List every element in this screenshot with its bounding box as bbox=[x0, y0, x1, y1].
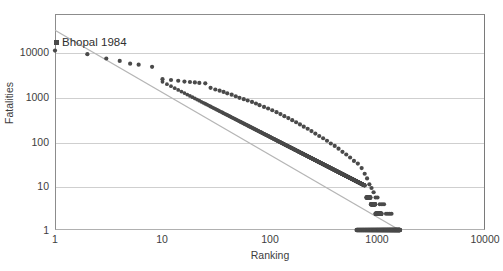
data-point bbox=[360, 166, 364, 170]
data-point bbox=[254, 101, 258, 105]
data-point bbox=[208, 86, 212, 90]
data-point bbox=[165, 82, 169, 86]
data-point bbox=[382, 202, 386, 206]
data-point bbox=[137, 63, 141, 67]
data-point bbox=[197, 81, 201, 85]
data-point bbox=[372, 190, 376, 194]
data-point bbox=[53, 49, 57, 53]
data-point bbox=[325, 139, 329, 143]
x-tick-label: 100 bbox=[261, 233, 279, 245]
data-point bbox=[150, 65, 154, 69]
data-point bbox=[329, 141, 333, 145]
data-point bbox=[379, 212, 383, 216]
data-point bbox=[298, 122, 302, 126]
data-point bbox=[274, 110, 278, 114]
scatter-series bbox=[53, 49, 402, 233]
data-point bbox=[193, 80, 197, 84]
data-point bbox=[313, 131, 317, 135]
data-point bbox=[270, 108, 274, 112]
data-point bbox=[302, 125, 306, 129]
data-point bbox=[309, 129, 313, 133]
data-point bbox=[188, 80, 192, 84]
data-point bbox=[363, 184, 367, 188]
data-point bbox=[250, 100, 254, 104]
data-point bbox=[262, 105, 266, 109]
data-point bbox=[294, 120, 298, 124]
data-point bbox=[169, 78, 173, 82]
data-point bbox=[389, 212, 393, 216]
x-axis-tick-labels: 1 10 100 1000 10000 bbox=[55, 233, 485, 249]
data-point bbox=[237, 96, 241, 100]
data-point bbox=[230, 93, 234, 97]
data-point bbox=[182, 79, 186, 83]
data-point bbox=[373, 202, 377, 206]
data-point bbox=[282, 114, 286, 118]
x-tick-label: 1000 bbox=[365, 233, 388, 245]
data-point bbox=[368, 195, 372, 199]
data-point bbox=[369, 186, 373, 190]
data-point bbox=[356, 161, 360, 165]
chart-figure: Fatalities 1 10 100 1000 10000 Bhopal 19… bbox=[0, 0, 503, 271]
data-point bbox=[333, 144, 337, 148]
data-point bbox=[246, 98, 250, 102]
data-point bbox=[213, 87, 217, 91]
data-point bbox=[225, 91, 229, 95]
data-point bbox=[176, 79, 180, 83]
data-point bbox=[169, 84, 173, 88]
x-axis-title: Ranking bbox=[55, 249, 485, 261]
data-point bbox=[278, 112, 282, 116]
data-point bbox=[128, 62, 132, 66]
data-point bbox=[340, 150, 344, 154]
data-point bbox=[367, 182, 371, 186]
data-point bbox=[365, 176, 369, 180]
data-point bbox=[352, 159, 356, 163]
data-point bbox=[173, 86, 177, 90]
data-point bbox=[375, 195, 379, 199]
data-point bbox=[161, 80, 165, 84]
x-tick-label: 10 bbox=[156, 233, 168, 245]
data-point bbox=[344, 152, 348, 156]
data-point bbox=[257, 103, 261, 107]
data-point bbox=[242, 97, 246, 101]
data-point bbox=[363, 172, 367, 176]
data-layer bbox=[0, 0, 503, 271]
data-point bbox=[290, 118, 294, 122]
data-point bbox=[286, 116, 290, 120]
data-point bbox=[398, 228, 402, 232]
data-point bbox=[221, 90, 225, 94]
data-point bbox=[176, 88, 180, 92]
data-point bbox=[266, 106, 270, 110]
x-tick-label: 10000 bbox=[470, 233, 499, 245]
data-point bbox=[203, 81, 207, 85]
data-point bbox=[336, 147, 340, 151]
data-point bbox=[104, 56, 108, 60]
x-tick-label: 1 bbox=[52, 233, 58, 245]
scatter-series-dense-tail bbox=[161, 80, 403, 232]
data-point bbox=[85, 52, 89, 56]
data-point bbox=[321, 136, 325, 140]
data-point bbox=[317, 134, 321, 138]
data-point bbox=[218, 89, 222, 93]
data-point bbox=[118, 59, 122, 63]
data-point bbox=[234, 94, 238, 98]
data-point bbox=[348, 155, 352, 159]
data-point bbox=[306, 127, 310, 131]
